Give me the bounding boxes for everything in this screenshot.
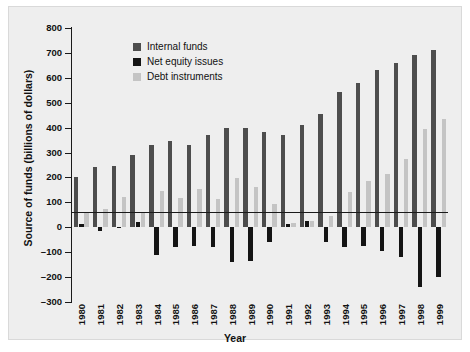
x-tick-label: 1985 (170, 304, 181, 325)
bar (436, 227, 441, 277)
y-tick-label: –200 (28, 272, 62, 281)
bar (380, 227, 385, 251)
x-tick-label: 1995 (358, 304, 369, 325)
x-axis-title: Year (0, 332, 470, 344)
y-tick-mark (65, 202, 71, 203)
x-tick-label: 1990 (264, 304, 275, 325)
x-tick-label: 1999 (434, 304, 445, 325)
bar (399, 227, 404, 257)
bar (79, 224, 84, 227)
legend-swatch-icon (133, 43, 141, 51)
y-tick-mark (65, 53, 71, 54)
x-tick-label: 1996 (377, 304, 388, 325)
x-tick-label: 1993 (321, 304, 332, 325)
bar (366, 181, 371, 227)
chart-figure: 8007006005004003002001000–100–200–300 19… (0, 0, 470, 352)
legend-label: Debt instruments (147, 71, 223, 82)
x-tick-label: 1994 (340, 304, 351, 325)
bar (356, 83, 361, 227)
bar (348, 192, 353, 227)
y-tick-mark (65, 128, 71, 129)
x-tick-label: 1982 (114, 304, 125, 325)
bar (173, 227, 178, 247)
bar (342, 227, 347, 247)
bar (168, 141, 173, 228)
bar (206, 135, 211, 228)
x-tick-label: 1988 (227, 304, 238, 325)
bar (136, 222, 141, 227)
bar (211, 227, 216, 247)
bar (394, 63, 399, 227)
bar (318, 114, 323, 227)
bar (160, 191, 165, 227)
bar (305, 221, 310, 227)
bar (418, 227, 423, 287)
x-tick-label: 1980 (76, 304, 87, 325)
plot-area (72, 28, 448, 302)
bar (329, 216, 334, 227)
legend-swatch-icon (133, 73, 141, 81)
y-tick-mark (65, 302, 71, 303)
x-tick-label: 1998 (415, 304, 426, 325)
bar (375, 70, 380, 227)
bar (291, 223, 296, 227)
y-tick-mark (65, 277, 71, 278)
y-tick-mark (65, 78, 71, 79)
y-axis-title: Source of funds (billions of dollars) (22, 58, 34, 258)
bar (254, 187, 259, 227)
bar (431, 50, 436, 227)
bar (93, 167, 98, 227)
legend-item: Net equity issues (133, 55, 223, 68)
bar (130, 155, 135, 227)
bar (286, 224, 291, 228)
bar (98, 227, 103, 231)
bar (154, 227, 159, 254)
y-tick-label: 800 (28, 23, 62, 32)
legend-item: Debt instruments (133, 70, 223, 83)
y-tick-label: 700 (28, 48, 62, 57)
bar (404, 159, 409, 228)
bar (112, 166, 117, 227)
legend-swatch-icon (133, 58, 141, 66)
bar (187, 145, 192, 228)
bar (310, 221, 315, 227)
bar (442, 119, 447, 227)
bar (192, 227, 197, 246)
x-tick-label: 1991 (283, 304, 294, 325)
zero-baseline (72, 212, 448, 213)
legend-item: Internal funds (133, 40, 223, 53)
legend-label: Net equity issues (147, 56, 223, 67)
bar (281, 135, 286, 227)
x-tick-label: 1984 (152, 304, 163, 325)
x-tick-label: 1981 (95, 304, 106, 325)
y-tick-mark (65, 153, 71, 154)
bar (117, 227, 122, 228)
bar (361, 227, 366, 246)
bar (84, 212, 89, 227)
bar (230, 227, 235, 262)
bar (197, 189, 202, 228)
x-tick-label: 1986 (189, 304, 200, 325)
bar (412, 55, 417, 227)
x-tick-label: 1992 (302, 304, 313, 325)
x-tick-label: 1989 (246, 304, 257, 325)
y-tick-label: –300 (28, 297, 62, 306)
x-tick-label: 1997 (396, 304, 407, 325)
bar (141, 213, 146, 227)
y-tick-mark (65, 177, 71, 178)
bar (267, 227, 272, 242)
bar (385, 174, 390, 228)
bar (149, 145, 154, 227)
y-tick-mark (65, 252, 71, 253)
x-tick-label: 1983 (133, 304, 144, 325)
bar (337, 92, 342, 228)
bar (74, 177, 79, 227)
bar (324, 227, 329, 242)
legend-label: Internal funds (147, 41, 208, 52)
bar (272, 204, 277, 228)
chart-legend: Internal fundsNet equity issuesDebt inst… (133, 40, 223, 85)
y-tick-mark (65, 103, 71, 104)
x-tick-label: 1987 (208, 304, 219, 325)
bar (235, 178, 240, 227)
y-tick-mark (65, 28, 71, 29)
